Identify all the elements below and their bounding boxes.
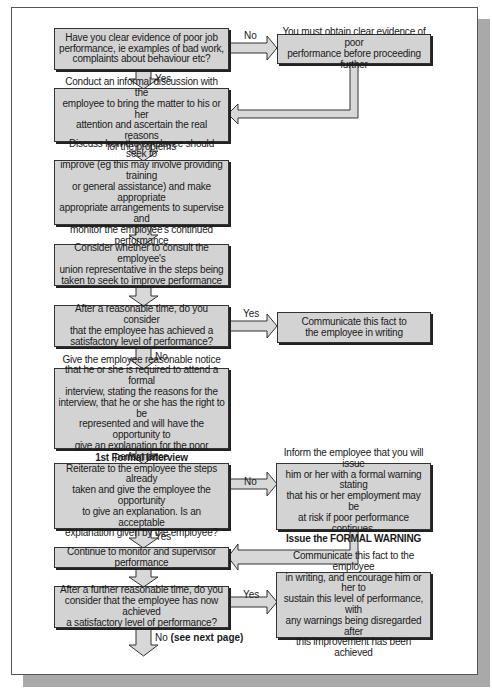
step-title: 1st Formal Interview [95,452,188,463]
step-text: Have you clear evidence of poor job perf… [59,33,224,65]
label-no: No [155,351,168,362]
step-text: You must obtain clear evidence of poor p… [281,27,427,70]
step-discuss-improve: Discuss how the employee should seek to … [54,160,229,225]
label-yes: Yes [155,73,171,84]
step-text: Discuss how the employee should seek to … [58,139,225,247]
label-no: No [155,632,168,643]
arrow-return-icon [228,63,358,124]
step-text: Communicate this fact to the employee in… [301,317,406,339]
step-evidence-question: Have you clear evidence of poor job perf… [54,28,229,70]
step-text: Consider whether to consult the employee… [58,243,225,286]
step-consult-union: Consider whether to consult the employee… [54,244,229,286]
step-informal-discussion: Conduct an informal discussion with the … [54,88,229,142]
step-continue-monitor: Continue to monitor and supervisor perfo… [54,547,229,568]
arrow-down-icon [129,627,158,656]
step-text: Continue to monitor and supervisor perfo… [58,547,225,569]
step-further-question: After a further reasonable time, do you … [54,586,229,628]
step-text: Give the employee reasonable notice that… [58,355,225,463]
step-notice-interview: Give the employee reasonable notice that… [54,368,229,449]
step-text: Communicate this fact to the employee in… [280,551,427,659]
step-satisfactory-question: After a reasonable time, do you consider… [54,305,229,347]
step-text: Reiterate to the employee the steps alre… [65,463,218,539]
label-yes: Yes [155,531,171,542]
step-communicate-writing: Communicate this fact to the employee in… [277,312,431,343]
step-communicate-sustain: Communicate this fact to the employee in… [276,572,431,638]
step-obtain-evidence: You must obtain clear evidence of poor p… [277,34,431,64]
label-no: No [244,30,257,41]
label-no: No [244,476,257,487]
step-emphasis: Issue the FORMAL WARNING [286,533,421,544]
label-yes: Yes [243,589,259,600]
label-no-see-next-page: No (see next page) [155,632,243,643]
label-yes: Yes [243,308,259,319]
step-formal-warning: Inform the employee that you will issue … [276,463,431,530]
step-text: Inform the employee that you will issue … [284,447,424,534]
step-text: After a reasonable time, do you consider… [58,304,225,347]
label-see-next-page: (see next page) [171,632,244,643]
step-first-formal-interview: 1st Formal Interview Reiterate to the em… [54,463,229,529]
step-text: After a further reasonable time, do you … [58,585,225,628]
